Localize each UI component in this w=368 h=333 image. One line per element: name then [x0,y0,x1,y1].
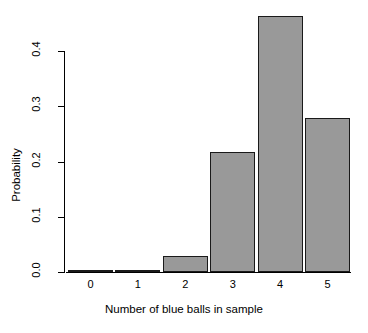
y-axis-tick-label: 0.1 [30,195,42,235]
y-axis-tick [58,106,64,107]
bar [210,152,255,272]
x-axis-title: Number of blue balls in sample [0,303,368,315]
x-axis-tick-label: 4 [260,278,300,290]
bar [258,16,303,272]
y-axis-tick-label: 0.2 [30,140,42,180]
y-axis-title: Probability [10,120,22,230]
y-axis-tick-label: 0.3 [30,84,42,124]
y-axis-tick [58,162,64,163]
y-axis-tick [58,51,64,52]
x-axis-line [66,272,351,273]
bar [163,256,208,272]
x-axis-tick-label: 2 [165,278,205,290]
bar [68,270,113,272]
y-axis-tick [58,217,64,218]
plot-area: 0.00.10.20.30.4 012345 Probability Numbe… [0,0,368,333]
x-axis-tick-label: 5 [308,278,348,290]
x-axis-tick-label: 3 [213,278,253,290]
bar [115,270,160,272]
y-axis-tick [58,272,64,273]
x-axis-tick-label: 0 [71,278,111,290]
x-axis-tick-label: 1 [118,278,158,290]
bar [305,118,350,272]
y-axis-tick-label: 0.4 [30,29,42,69]
y-axis-tick-label: 0.0 [30,250,42,290]
y-axis-line [64,51,65,273]
bar-chart-figure: 0.00.10.20.30.4 012345 Probability Numbe… [0,0,368,333]
